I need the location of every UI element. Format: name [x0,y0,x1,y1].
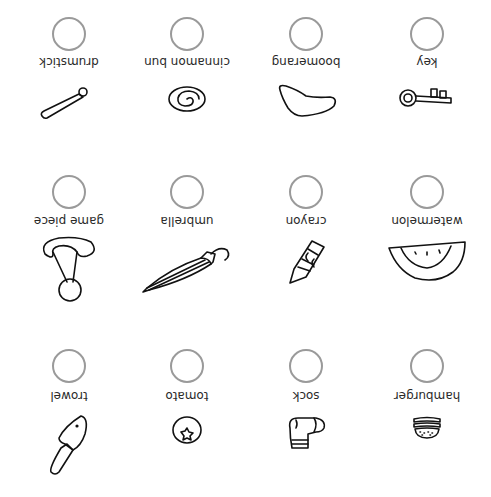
answer-circle[interactable] [289,349,323,383]
item-label: game piece [14,214,124,228]
answer-circle[interactable] [170,349,204,383]
item-label: boomerang [251,55,361,69]
answer-circle[interactable] [52,175,86,209]
item-label: crayon [251,214,361,228]
umbrella-icon [141,246,233,294]
answer-circle[interactable] [410,349,444,383]
item-label: drumstick [14,55,124,69]
boomerang-icon [276,84,338,118]
answer-circle[interactable] [52,17,86,51]
answer-circle[interactable] [52,349,86,383]
hamburger-icon [412,416,442,440]
tomato-icon [171,416,203,446]
watermelon-icon [387,240,467,282]
item-label: key [372,55,482,69]
trowel-icon [45,414,93,476]
answer-circle[interactable] [410,17,444,51]
drumstick-icon [39,84,99,120]
answer-circle[interactable] [289,17,323,51]
item-label: trowel [14,389,124,403]
item-label: umbrella [132,214,242,228]
sock-icon [286,414,326,450]
cinnamon-bun-icon [167,86,207,114]
item-label: cinnamon bun [132,55,242,69]
answer-circle[interactable] [170,17,204,51]
answer-circle[interactable] [410,175,444,209]
item-label: watermelon [372,214,482,228]
key-icon [399,86,455,112]
answer-circle[interactable] [289,175,323,209]
item-label: tomato [132,389,242,403]
crayon-icon [286,239,326,285]
item-label: hamburger [372,389,482,403]
game-piece-icon [39,234,99,304]
answer-circle[interactable] [170,175,204,209]
item-label: sock [251,389,361,403]
